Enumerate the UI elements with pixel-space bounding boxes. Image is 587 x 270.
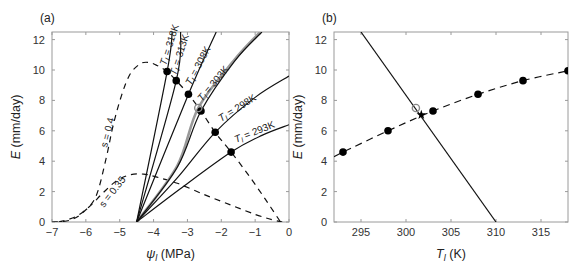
y-tick-label: 0: [39, 216, 45, 228]
y-tick-label: 12: [315, 34, 327, 46]
x-axis-label: ψl (MPa): [146, 247, 195, 263]
x-tick-label: 305: [442, 226, 460, 238]
figure: −7−6−5−4−3−2−10024681012(a)ψl (MPa)E (mm…: [0, 0, 587, 270]
dashed-curve: [334, 71, 568, 157]
x-tick-label: −6: [80, 226, 93, 238]
y-axis-label: E (mm/day): [291, 95, 305, 160]
data-point: [429, 107, 437, 115]
y-tick-label: 6: [39, 125, 45, 137]
temperature-curve: [137, 125, 289, 222]
panel-b-chart: 295300305310315024681012(b)Tl (K)E (mm/d…: [291, 11, 572, 263]
y-tick-label: 6: [321, 125, 327, 137]
x-tick-label: 310: [487, 226, 505, 238]
y-tick-label: 8: [39, 94, 45, 106]
panel-label: (a): [40, 11, 55, 25]
energy-balance-line: [361, 32, 496, 222]
data-point: [474, 91, 482, 99]
x-tick-label: −1: [249, 226, 262, 238]
x-tick-label: −3: [181, 226, 194, 238]
s-label: s = 0.35: [97, 174, 128, 209]
data-point: [564, 67, 572, 75]
data-point: [172, 77, 180, 85]
y-tick-label: 0: [321, 216, 327, 228]
y-tick-label: 2: [321, 186, 327, 198]
data-point: [384, 127, 392, 135]
y-tick-label: 4: [321, 155, 327, 167]
y-tick-label: 8: [321, 94, 327, 106]
temperature-label: Tl = 298K: [216, 92, 259, 125]
data-point: [339, 148, 347, 156]
y-tick-label: 4: [39, 155, 45, 167]
data-point: [227, 148, 235, 156]
x-axis-label: Tl (K): [436, 247, 466, 263]
y-axis-label: E (mm/day): [9, 95, 23, 160]
data-point: [211, 129, 219, 137]
y-tick-label: 10: [315, 64, 327, 76]
y-tick-label: 12: [33, 34, 45, 46]
dashed-curve: [52, 62, 281, 222]
x-tick-label: −2: [215, 226, 228, 238]
data-point: [185, 91, 193, 99]
x-tick-label: 315: [532, 226, 550, 238]
y-tick-label: 10: [33, 64, 45, 76]
open-point: [412, 104, 419, 111]
axes-frame: [334, 32, 568, 222]
panel-label: (b): [322, 11, 337, 25]
x-tick-label: 300: [397, 226, 415, 238]
x-tick-label: 295: [352, 226, 370, 238]
data-point: [519, 77, 527, 85]
dashed-curve: [59, 174, 282, 222]
x-tick-label: −4: [147, 226, 160, 238]
s-label: s = 0.4: [98, 116, 116, 148]
x-tick-label: −7: [46, 226, 59, 238]
x-tick-label: −5: [113, 226, 126, 238]
x-tick-label: 0: [286, 226, 292, 238]
panel-a-chart: −7−6−5−4−3−2−10024681012(a)ψl (MPa)E (mm…: [9, 11, 292, 263]
y-tick-label: 2: [39, 186, 45, 198]
